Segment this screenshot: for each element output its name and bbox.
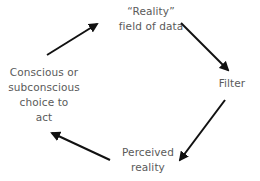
arrow-perceived-to-choice-icon [52,133,110,160]
arrow-filter-to-perceived-icon [180,100,225,160]
cycle-arrows [0,0,260,181]
arrow-choice-to-reality-icon [47,24,97,55]
arrow-reality-to-filter-icon [181,23,228,70]
